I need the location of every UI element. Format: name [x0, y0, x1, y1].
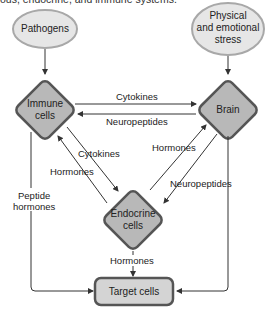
immune-node: Immune cells: [15, 98, 75, 122]
endocrine-label-line2: cells: [103, 220, 163, 232]
diagram-canvas: [0, 0, 271, 317]
target-label: Target cells: [109, 286, 160, 297]
edge-label-endocrine-immune: Hormones: [50, 166, 94, 177]
edge-label-brain-immune: Neuropeptides: [106, 116, 168, 127]
stress-label-line1: Physical: [188, 10, 268, 22]
pathogens-node: Pathogens: [13, 23, 77, 35]
edge-label-endocrine-brain: Hormones: [152, 142, 196, 153]
brain-node: Brain: [198, 104, 258, 116]
pathogens-label: Pathogens: [21, 23, 69, 34]
stress-label-line2: and emotional: [188, 22, 268, 34]
edge-label-immune-target-line1: Peptide: [13, 190, 55, 201]
edge-label-immune-target: Peptide hormones: [13, 190, 55, 212]
edge-label-immune-endocrine: Cytokines: [78, 148, 120, 159]
edge-label-immune-brain: Cytokines: [116, 91, 158, 102]
endocrine-label-line1: Endocrine: [103, 208, 163, 220]
edge-label-brain-endocrine: Neuropeptides: [170, 178, 232, 189]
edge-label-immune-target-line2: hormones: [13, 201, 55, 212]
edge-label-endocrine-target: Hormones: [110, 255, 154, 266]
stress-label-line3: stress: [188, 34, 268, 46]
brain-label: Brain: [216, 104, 239, 115]
target-node: Target cells: [95, 286, 173, 298]
immune-label-line1: Immune: [15, 98, 75, 110]
stress-node: Physical and emotional stress: [188, 10, 268, 46]
endocrine-node: Endocrine cells: [103, 208, 163, 232]
immune-label-line2: cells: [15, 110, 75, 122]
